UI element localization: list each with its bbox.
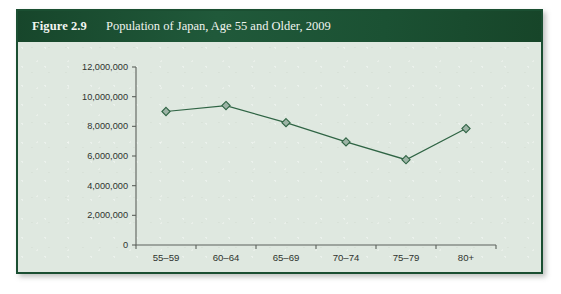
data-point-marker: [282, 119, 290, 127]
y-axis-tick-label: 2,000,000: [87, 210, 128, 220]
figure-title: Population of Japan, Age 55 and Older, 2…: [106, 19, 331, 34]
chart-plot-area: 02,000,0004,000,0006,000,0008,000,00010,…: [18, 42, 541, 272]
y-axis-tick-label: 8,000,000: [87, 121, 128, 131]
y-axis-tick-label: 12,000,000: [82, 62, 128, 72]
y-axis-tick-label: 4,000,000: [87, 181, 128, 191]
y-axis-tick-label: 0: [123, 240, 128, 250]
y-axis-tick-label: 6,000,000: [87, 151, 128, 161]
x-axis-tick-label: 65–69: [273, 252, 300, 263]
x-axis-tick-label: 80+: [458, 252, 475, 263]
x-axis-tick-label: 70–74: [333, 252, 360, 263]
figure-header: Figure 2.9 Population of Japan, Age 55 a…: [18, 11, 541, 42]
chart-axes: [136, 67, 496, 245]
line-chart: 02,000,0004,000,0006,000,0008,000,00010,…: [18, 42, 541, 272]
x-axis-tick-label: 60–64: [213, 252, 240, 263]
data-point-marker: [222, 101, 230, 109]
data-point-marker: [402, 156, 410, 164]
y-axis-tick-label: 10,000,000: [82, 92, 128, 102]
data-point-marker: [462, 124, 470, 132]
data-point-marker: [342, 138, 350, 146]
x-axis-tick-label: 75–79: [393, 252, 420, 263]
x-axis-tick-label: 55–59: [153, 252, 180, 263]
figure-card: Figure 2.9 Population of Japan, Age 55 a…: [16, 9, 543, 274]
series-line-population: [166, 106, 466, 160]
data-point-marker: [162, 107, 170, 115]
figure-number: Figure 2.9: [32, 19, 87, 34]
